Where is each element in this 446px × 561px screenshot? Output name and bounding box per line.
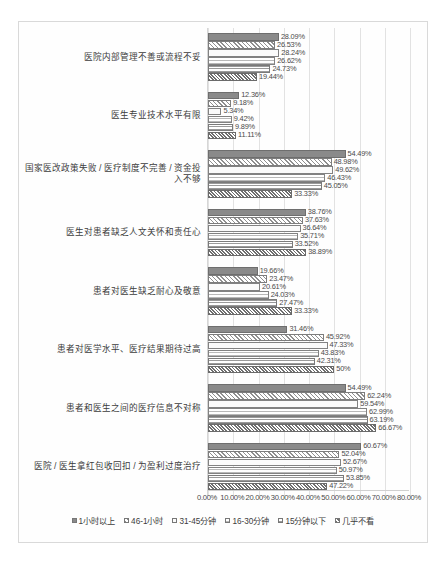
bar-row: 46.43% <box>208 174 409 181</box>
bar-5[interactable] <box>208 424 376 431</box>
x-axis-tick-label: 70.00% <box>372 493 396 502</box>
bar-5[interactable] <box>208 307 292 314</box>
legend-swatch <box>278 518 283 523</box>
legend-label: 几乎不看 <box>342 514 374 526</box>
bar-1[interactable] <box>208 217 303 224</box>
bar-3[interactable] <box>208 350 319 357</box>
bar-2[interactable] <box>208 225 301 232</box>
bar-0[interactable] <box>208 384 346 391</box>
bar-row: 33.33% <box>208 190 409 197</box>
x-axis-tick-label: 40.00% <box>296 493 320 502</box>
bar-4[interactable] <box>208 299 277 306</box>
bar-0[interactable] <box>208 326 287 333</box>
gridline <box>410 28 411 496</box>
x-axis-tick-label: 50.00% <box>321 493 345 502</box>
bar-row: 52.67% <box>208 459 409 466</box>
bar-4[interactable] <box>208 475 344 482</box>
bar-3[interactable] <box>208 57 275 64</box>
bar-row: 20.61% <box>208 283 409 290</box>
bar-group: 54.49%48.98%49.62%46.43%45.05%33.33% <box>208 150 409 198</box>
bar-5[interactable] <box>208 483 327 490</box>
category-axis: 医院内部管理不善或流程不妥医生专业技术水平有限国家医改政策失败 / 医疗制度不完… <box>19 28 207 508</box>
legend-item-3[interactable]: 16-30分钟 <box>225 514 269 526</box>
legend-item-5[interactable]: 几乎不看 <box>335 514 374 526</box>
legend-label: 31-45分钟 <box>179 514 216 526</box>
bar-row: 42.31% <box>208 358 409 365</box>
bar-5[interactable] <box>208 190 292 197</box>
category-label: 患者和医生之间的医疗信息不对称 <box>19 403 201 414</box>
bar-4[interactable] <box>208 124 233 131</box>
bar-5[interactable] <box>208 73 257 80</box>
bar-row: 24.03% <box>208 291 409 298</box>
x-axis-line <box>207 490 409 491</box>
bar-group: 54.49%62.24%59.54%62.99%63.19%66.67% <box>208 384 409 432</box>
bar-row: 60.67% <box>208 443 409 450</box>
bar-row: 33.33% <box>208 307 409 314</box>
bar-5[interactable] <box>208 132 236 139</box>
bar-row: 48.98% <box>208 158 409 165</box>
bar-row: 28.24% <box>208 49 409 56</box>
legend-item-1[interactable]: 46-1小时 <box>124 514 163 526</box>
bar-3[interactable] <box>208 467 337 474</box>
bar-0[interactable] <box>208 209 306 216</box>
legend-swatch <box>124 518 129 523</box>
legend-item-0[interactable]: 1小时以上 <box>72 514 116 526</box>
bar-5[interactable] <box>208 249 306 256</box>
legend-swatch <box>172 518 177 523</box>
bar-3[interactable] <box>208 174 325 181</box>
bar-value-label: 31.46% <box>289 323 313 334</box>
category-label: 医院内部管理不善或流程不妥 <box>19 52 201 63</box>
bar-row: 26.62% <box>208 57 409 64</box>
bar-4[interactable] <box>208 358 315 365</box>
bar-0[interactable] <box>208 33 279 40</box>
bar-row: 38.89% <box>208 249 409 256</box>
bar-3[interactable] <box>208 408 367 415</box>
bar-2[interactable] <box>208 400 358 407</box>
bar-1[interactable] <box>208 275 267 282</box>
bar-0[interactable] <box>208 267 258 274</box>
legend-item-2[interactable]: 31-45分钟 <box>172 514 216 526</box>
legend-item-4[interactable]: 15分钟以下 <box>278 514 326 526</box>
bar-group: 38.76%37.63%36.64%35.71%33.52%38.89% <box>208 209 409 257</box>
bar-value-label: 33.33% <box>294 188 318 199</box>
legend-swatch <box>225 518 230 523</box>
bar-1[interactable] <box>208 451 339 458</box>
bar-row: 11.11% <box>208 132 409 139</box>
bar-0[interactable] <box>208 150 346 157</box>
bar-3[interactable] <box>208 233 298 240</box>
bar-1[interactable] <box>208 41 275 48</box>
bar-2[interactable] <box>208 49 279 56</box>
bar-5[interactable] <box>208 366 334 373</box>
bar-2[interactable] <box>208 166 333 173</box>
bar-row: 54.49% <box>208 150 409 157</box>
bar-2[interactable] <box>208 283 260 290</box>
x-axis-tick-label: 10.00% <box>220 493 244 502</box>
legend-swatch <box>335 518 340 523</box>
x-axis-tick-label: 30.00% <box>271 493 295 502</box>
bar-row: 47.33% <box>208 342 409 349</box>
bar-1[interactable] <box>208 334 324 341</box>
bar-row: 26.53% <box>208 41 409 48</box>
bar-3[interactable] <box>208 291 269 298</box>
bar-value-label: 11.11% <box>238 129 261 140</box>
bar-3[interactable] <box>208 116 232 123</box>
category-label: 国家医改政策失败 / 医疗制度不完善 / 资金投入不够 <box>19 163 201 185</box>
bar-2[interactable] <box>208 459 341 466</box>
bar-0[interactable] <box>208 443 361 450</box>
bar-1[interactable] <box>208 392 365 399</box>
bar-1[interactable] <box>208 158 332 165</box>
bar-2[interactable] <box>208 342 328 349</box>
legend-swatch <box>72 518 77 523</box>
bar-row: 52.04% <box>208 451 409 458</box>
bar-value-label: 45.05% <box>324 180 348 191</box>
bar-groups: 28.09%26.53%28.24%26.62%24.73%19.44%12.3… <box>208 28 409 496</box>
bar-2[interactable] <box>208 108 221 115</box>
bar-4[interactable] <box>208 416 368 423</box>
legend-label: 46-1小时 <box>131 514 163 526</box>
bar-4[interactable] <box>208 241 293 248</box>
bar-row: 50% <box>208 366 409 373</box>
bar-row: 45.92% <box>208 334 409 341</box>
bar-row: 49.62% <box>208 166 409 173</box>
category-label: 医院 / 医生拿红包收回扣 / 为盈利过度治疗 <box>19 461 201 472</box>
category-label: 患者对医生缺乏耐心及敬意 <box>19 286 201 297</box>
